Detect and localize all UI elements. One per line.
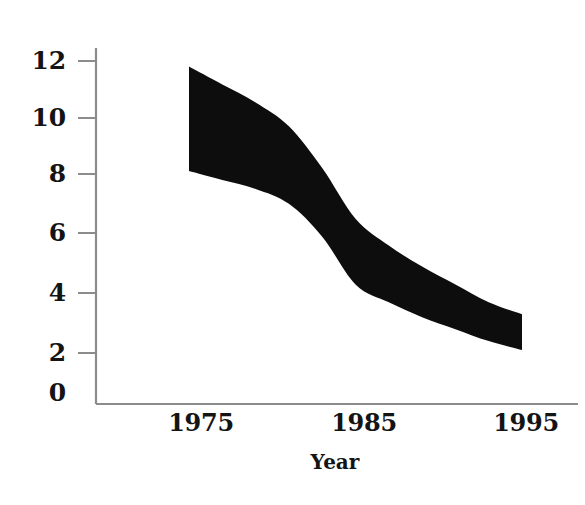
x-axis-title: Year: [255, 452, 415, 472]
x-tick-label-1985: 1985: [314, 411, 414, 435]
x-tick-label-1995: 1995: [476, 411, 576, 435]
chart-figure: 12 10 8 6 4 2 0 1975 1985 1995 Year: [0, 0, 585, 505]
y-tick-label-10: 10: [14, 105, 66, 130]
y-tick-label-8: 8: [14, 161, 66, 186]
y-tick-label-2: 2: [14, 340, 66, 365]
y-tick-label-6: 6: [14, 220, 66, 245]
y-tick-label-0: 0: [14, 380, 66, 405]
x-tick-label-1975: 1975: [151, 411, 251, 435]
y-tick-label-4: 4: [14, 280, 66, 305]
y-tick-label-12: 12: [14, 48, 66, 73]
